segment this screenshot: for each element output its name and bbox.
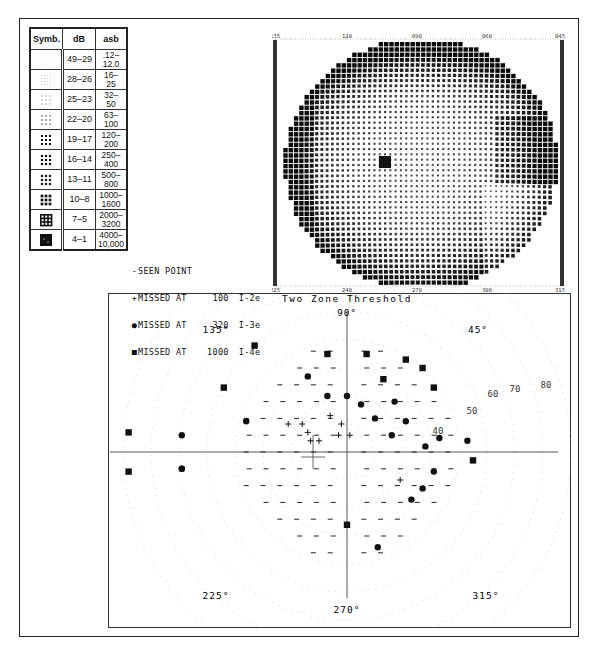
missed-dot-point bbox=[375, 544, 381, 550]
legend-header-row: Symb. dB asb bbox=[30, 28, 127, 50]
legend-db-value: 22–20 bbox=[63, 110, 96, 130]
missed-cross-point bbox=[285, 421, 291, 427]
missed-cross-point bbox=[336, 432, 342, 438]
legend-asb-value: 120–200 bbox=[96, 130, 128, 150]
legend-symbol-cell bbox=[30, 50, 63, 70]
angle-label: 45° bbox=[468, 324, 488, 335]
missed-dot-point bbox=[389, 432, 395, 438]
legend-asb-value: 1000–1600 bbox=[96, 190, 128, 210]
missed-dot-point bbox=[408, 496, 414, 502]
greyscale-top-label: 135 bbox=[272, 34, 280, 39]
density-symbol-icon bbox=[39, 93, 53, 107]
legend-row: 19–17120–200 bbox=[30, 130, 127, 150]
legend-symbol-cell bbox=[30, 70, 63, 90]
density-symbol-icon bbox=[39, 113, 53, 127]
legend-row: 25–2332–50 bbox=[30, 90, 127, 110]
greyscale-bottom-label: 240 bbox=[342, 287, 352, 292]
greyscale-bottom-label: 315 bbox=[555, 287, 565, 292]
missed-square-point bbox=[221, 384, 227, 390]
legend-asb-value: 250–400 bbox=[96, 150, 128, 170]
density-symbol-icon bbox=[39, 193, 53, 207]
legend-asb-value: 500–800 bbox=[96, 170, 128, 190]
missed-square-point bbox=[363, 351, 369, 357]
missed-dot-point bbox=[344, 393, 350, 399]
missed-dot-point bbox=[179, 432, 185, 438]
missed-cross-point bbox=[316, 438, 322, 444]
missed-square-point bbox=[431, 384, 437, 390]
angle-label: 135° bbox=[203, 324, 230, 335]
missed-cross-point bbox=[338, 421, 344, 427]
legend-db-value: 10–8 bbox=[63, 190, 96, 210]
ring-label: 70 bbox=[510, 384, 521, 394]
key-label: SEEN POINT bbox=[138, 267, 192, 276]
angle-label: 90° bbox=[337, 307, 357, 318]
greyscale-top-label: 090 bbox=[412, 34, 422, 39]
legend-db-value: 7–5 bbox=[63, 210, 96, 230]
legend-symbol-cell bbox=[30, 150, 63, 170]
legend-db-value: 4–1 bbox=[63, 230, 96, 251]
greyscale-top-label: 120 bbox=[342, 34, 352, 39]
missed-cross-point bbox=[305, 429, 311, 435]
greyscale-field-plot: 135120090060045225240270300315 bbox=[272, 34, 568, 292]
legend-asb-value: .12–12.0 bbox=[96, 50, 128, 70]
legend-db-value: 19–17 bbox=[63, 130, 96, 150]
missed-square-point bbox=[251, 342, 257, 348]
density-symbol-icon bbox=[39, 133, 53, 147]
legend-header-symbol: Symb. bbox=[30, 28, 63, 50]
greyscale-bottom-label: 300 bbox=[482, 287, 492, 292]
legend-table: Symb. dB asb 49–29.12–12.028–2616–2525–2… bbox=[29, 27, 128, 251]
legend-header-asb: asb bbox=[96, 28, 128, 50]
missed-square-point bbox=[419, 365, 425, 371]
legend-symbol-cell bbox=[30, 90, 63, 110]
legend-row: 16–14250–400 bbox=[30, 150, 127, 170]
legend-row: 7–52000–3200 bbox=[30, 210, 127, 230]
legend-symbol-cell bbox=[30, 110, 63, 130]
missed-dot-point bbox=[436, 435, 442, 441]
angle-label: 225° bbox=[203, 590, 230, 601]
legend-row: 10–81000–1600 bbox=[30, 190, 127, 210]
legend-symbol-cell bbox=[30, 170, 63, 190]
greyscale-bottom-label: 270 bbox=[412, 287, 422, 292]
density-symbol-icon bbox=[39, 73, 53, 87]
figure-caption bbox=[90, 643, 570, 653]
missed-square-point bbox=[403, 356, 409, 362]
missed-cross-point bbox=[397, 477, 403, 483]
density-symbol-icon bbox=[39, 173, 53, 187]
missed-square-point bbox=[380, 376, 386, 382]
chart-title: Two Zone Threshold bbox=[282, 293, 412, 304]
key-seen-point: -SEEN POINT bbox=[131, 267, 260, 276]
missed-square-point bbox=[125, 468, 131, 474]
legend-row: 22–2063–100 bbox=[30, 110, 127, 130]
legend-row: 4–14000–10,000 bbox=[30, 230, 127, 251]
missed-cross-point bbox=[299, 421, 305, 427]
missed-dot-point bbox=[403, 418, 409, 424]
legend-symbol-cell bbox=[30, 210, 63, 230]
legend-asb-value: 4000–10,000 bbox=[96, 230, 128, 251]
angle-label: 270° bbox=[334, 604, 361, 615]
missed-cross-point bbox=[347, 432, 353, 438]
missed-square-point bbox=[125, 429, 131, 435]
missed-dot-point bbox=[419, 485, 425, 491]
density-symbol-icon bbox=[39, 213, 53, 227]
legend-asb-value: 2000–3200 bbox=[96, 210, 128, 230]
legend-asb-value: 32–50 bbox=[96, 90, 128, 110]
missed-dot-point bbox=[422, 443, 428, 449]
legend-db-value: 25–23 bbox=[63, 90, 96, 110]
missed-dot-point bbox=[464, 438, 470, 444]
legend-db-value: 13–11 bbox=[63, 170, 96, 190]
ring-label: 40 bbox=[433, 426, 444, 436]
density-symbol-icon bbox=[39, 153, 53, 167]
legend-db-value: 28–26 bbox=[63, 70, 96, 90]
legend-symbol-cell bbox=[30, 190, 63, 210]
legend-db-value: 49–29 bbox=[63, 50, 96, 70]
ring-label: 60 bbox=[488, 389, 499, 399]
missed-dot-point bbox=[243, 418, 249, 424]
ring-label: 80 bbox=[541, 380, 552, 390]
missed-cross-point bbox=[327, 413, 333, 419]
greyscale-top-label: 045 bbox=[555, 34, 565, 39]
greyscale-top-label: 060 bbox=[482, 34, 492, 39]
legend-asb-value: 16–25 bbox=[96, 70, 128, 90]
angle-label: 315° bbox=[473, 590, 500, 601]
legend-row: 28–2616–25 bbox=[30, 70, 127, 90]
missed-square-point bbox=[324, 351, 330, 357]
